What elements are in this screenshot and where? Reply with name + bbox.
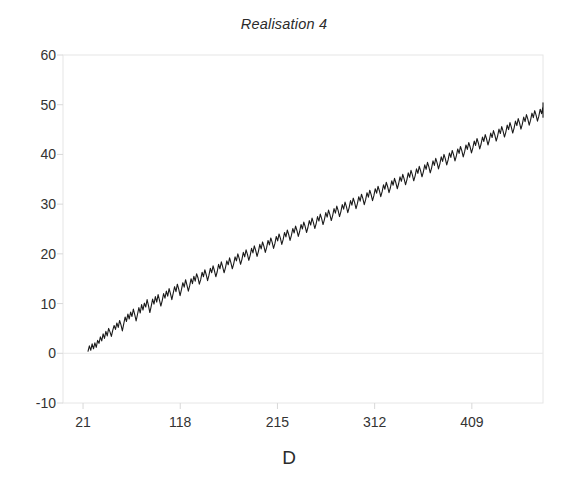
y-tick-label: 40 <box>40 146 56 162</box>
chart-container: Realisation 4 -100102030405060 211182153… <box>0 0 568 500</box>
x-axis-label: D <box>63 447 515 469</box>
x-tick-label: 215 <box>266 414 289 430</box>
series-layer <box>88 103 543 352</box>
y-tick-label: 0 <box>48 345 56 361</box>
x-tick-label: 409 <box>460 414 483 430</box>
y-tick-label: 10 <box>40 296 56 312</box>
x-tick-label: 21 <box>75 414 91 430</box>
y-tick-label: 50 <box>40 97 56 113</box>
x-tick-label: 118 <box>169 414 191 430</box>
y-tick-label: 30 <box>40 196 56 212</box>
data-line-realisation-4 <box>88 103 543 352</box>
y-tick-label: 60 <box>40 47 56 63</box>
y-axis-tick-labels: -100102030405060 <box>14 0 56 500</box>
y-tick-label: -10 <box>36 395 56 411</box>
y-tick-label: 20 <box>40 246 56 262</box>
x-tick-label: 312 <box>363 414 386 430</box>
plot-area-border <box>63 55 543 403</box>
